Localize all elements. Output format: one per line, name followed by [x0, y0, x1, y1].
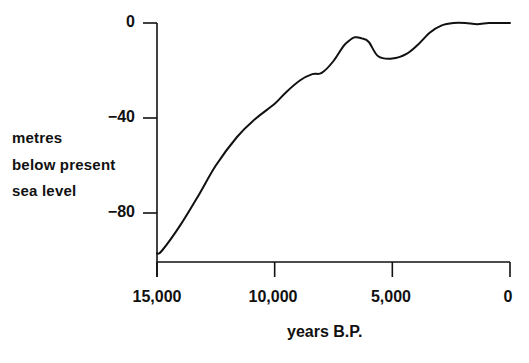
x-tick-label-10000: 10,000 [233, 288, 313, 306]
y-tick-label-neg80: −80 [75, 203, 135, 221]
x-tick-label-0: 0 [468, 288, 529, 306]
x-axis [157, 262, 510, 277]
x-axis-label: years B.P. [287, 323, 362, 341]
x-tick-label-5000: 5,000 [351, 288, 431, 306]
y-axis-label-line-3: sea level [12, 182, 76, 199]
y-axis-label-line-2: below present [12, 156, 115, 173]
y-tick-label-neg40: −40 [75, 108, 135, 126]
y-axis [143, 23, 157, 277]
chart-canvas [0, 0, 529, 363]
x-tick-label-15000: 15,000 [117, 288, 197, 306]
y-axis-label-line-1: metres [12, 129, 62, 146]
y-tick-label-0: 0 [75, 13, 135, 31]
sea-level-curve [157, 23, 510, 254]
